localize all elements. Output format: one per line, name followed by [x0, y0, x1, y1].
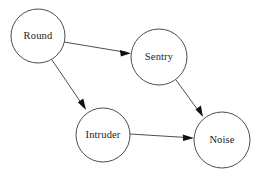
edge-sentry-noise-line: [176, 80, 200, 113]
node-intruder-label: Intruder: [85, 129, 120, 140]
diagram-canvas: Round Sentry Intruder Noise: [0, 0, 259, 178]
edge-intruder-noise-line: [130, 134, 190, 138]
node-sentry[interactable]: Sentry: [131, 29, 187, 85]
edge-round-sentry[interactable]: [64, 42, 131, 57]
edge-sentry-noise-arrowhead: [196, 106, 204, 118]
node-sentry-label: Sentry: [145, 51, 174, 62]
edge-intruder-noise[interactable]: [130, 134, 194, 141]
node-round[interactable]: Round: [11, 9, 65, 63]
node-noise-label: Noise: [209, 134, 234, 145]
edge-intruder-noise-arrowhead: [183, 134, 194, 141]
edge-round-intruder[interactable]: [52, 60, 86, 110]
node-intruder[interactable]: Intruder: [76, 108, 130, 162]
nodes-layer: Round Sentry Intruder Noise: [11, 9, 250, 168]
graph-svg: Round Sentry Intruder Noise: [0, 0, 259, 178]
edge-sentry-noise[interactable]: [176, 80, 203, 117]
edge-round-sentry-arrowhead: [120, 50, 131, 57]
node-noise[interactable]: Noise: [194, 112, 250, 168]
edge-round-intruder-line: [52, 60, 83, 106]
node-round-label: Round: [24, 30, 53, 41]
edge-round-sentry-line: [64, 42, 127, 52]
